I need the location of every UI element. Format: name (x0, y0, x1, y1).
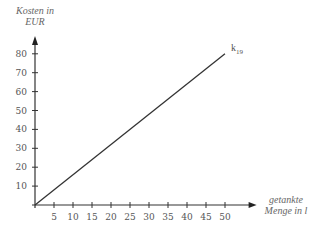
x-tick-label: 45 (200, 212, 212, 222)
series-line-k19 (35, 54, 225, 205)
x-axis-title: getankte (269, 194, 303, 205)
y-tick-label: 70 (16, 68, 28, 78)
labels: k19Kosten inEURgetankteMenge in l (15, 5, 308, 216)
y-tick-label: 50 (16, 106, 28, 116)
axes (32, 36, 257, 208)
series (35, 54, 225, 205)
x-tick-label: 35 (162, 212, 174, 222)
x-tick-label: 15 (86, 212, 98, 222)
x-axis-arrow-icon (249, 202, 257, 208)
series-label: k19 (231, 42, 244, 56)
y-tick-label: 10 (16, 181, 28, 191)
y-axis-title: EUR (24, 16, 44, 27)
x-tick-label: 20 (105, 212, 117, 222)
x-tick-label: 40 (181, 212, 193, 222)
y-tick-label: 30 (16, 143, 28, 153)
y-tick-label: 60 (16, 87, 28, 97)
x-tick-label: 25 (124, 212, 136, 222)
x-axis-title: Menge in l (264, 205, 308, 216)
x-tick-label: 50 (219, 212, 231, 222)
y-axis-arrow-icon (32, 36, 38, 45)
line-chart: 51015202530354045501020304050607080 k19K… (0, 0, 309, 232)
y-tick-label: 80 (16, 49, 28, 59)
x-tick-label: 10 (67, 212, 79, 222)
y-tick-label: 20 (16, 162, 28, 172)
x-tick-label: 5 (51, 212, 57, 222)
x-tick-label: 30 (143, 212, 155, 222)
y-tick-label: 40 (16, 124, 28, 134)
y-axis-title: Kosten in (15, 5, 54, 16)
